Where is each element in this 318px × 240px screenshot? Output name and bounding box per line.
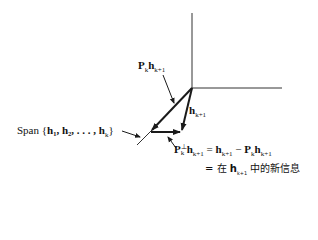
h-next-label: hk+1	[189, 104, 206, 119]
line2-h: h	[230, 163, 237, 174]
line2-text: 中的新信息	[247, 163, 300, 174]
rhs-h-sub: k+1	[222, 150, 233, 158]
h-next-sub: k+1	[195, 111, 206, 119]
perp-h-sub: k+1	[193, 150, 204, 158]
projection-h-sub: k+1	[154, 66, 165, 74]
line2-h-sub: k+1	[237, 170, 247, 176]
projection-pointer-arrow	[163, 75, 174, 103]
perp-eq: =	[204, 143, 216, 155]
perp-equation-line1: P⊥khk+1 = hk+1 − Pkhk+1	[174, 143, 272, 158]
projection-label: Pkhk+1	[138, 59, 165, 74]
span-label: Span {h₁, h₂, . . . , hk}	[17, 124, 114, 139]
rhs-vec-sub: k+1	[261, 150, 272, 158]
span-items: h₁, h₂, . . . , h	[47, 124, 105, 136]
line2-eq: = 在	[205, 163, 230, 174]
span-pointer-arrow	[122, 131, 140, 137]
perp-P: P	[174, 143, 181, 155]
perp-equation-line2: = 在 hk+1 中的新信息	[205, 160, 300, 176]
span-prefix: Span {	[17, 124, 47, 136]
span-suffix: }	[108, 124, 113, 136]
rhs-minus: −	[233, 143, 245, 155]
projection-P: P	[138, 59, 145, 71]
